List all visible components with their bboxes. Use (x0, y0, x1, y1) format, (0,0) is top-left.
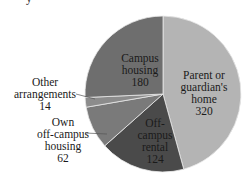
label-text: housing (110, 64, 170, 76)
label-text: Other (8, 76, 82, 88)
label-parent-home: Parent or guardian's home 320 (171, 69, 237, 117)
label-value: 14 (8, 100, 82, 112)
label-text: guardian's (171, 81, 237, 93)
label-off-campus-rental: Off- campus rental 124 (132, 117, 178, 165)
label-text: campus (132, 129, 178, 141)
label-text: rental (132, 141, 178, 153)
label-text: Parent or (171, 69, 237, 81)
label-value: 124 (132, 153, 178, 165)
label-text: Own (28, 116, 98, 128)
label-other-arrangements: Other arrangements 14 (8, 76, 82, 112)
label-text: off-campus (28, 128, 98, 140)
label-text: Campus (110, 52, 170, 64)
label-value: 180 (110, 76, 170, 88)
label-text: arrangements (8, 88, 82, 100)
label-own-off-campus: Own off-campus housing 62 (28, 116, 98, 164)
label-text: home (171, 93, 237, 105)
label-campus-housing: Campus housing 180 (110, 52, 170, 88)
label-text: housing (28, 140, 98, 152)
label-value: 62 (28, 152, 98, 164)
label-value: 320 (171, 105, 237, 117)
label-text: Off- (132, 117, 178, 129)
